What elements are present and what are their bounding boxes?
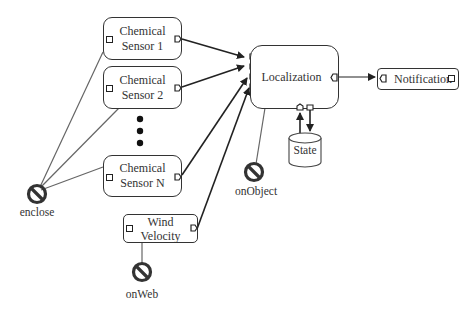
onobject-constraint-icon <box>246 164 263 181</box>
node-label: Localization <box>262 70 322 85</box>
wind-input-port-icon <box>126 225 133 232</box>
enclose-constraint-icon <box>29 186 46 203</box>
node-label: Chemical <box>120 73 166 88</box>
enclose-label: enclose <box>20 206 54 218</box>
sensorn-input-port-icon <box>106 174 113 181</box>
onweb-label: onWeb <box>126 288 158 300</box>
node-label: Sensor N <box>120 176 166 191</box>
ellipsis-dots <box>137 116 143 146</box>
onobject-label: onObject <box>235 185 277 197</box>
chemical-sensor-2-node[interactable]: ChemicalSensor 2 <box>103 66 182 109</box>
chemical-sensor-1-node[interactable]: ChemicalSensor 1 <box>103 17 182 60</box>
diagram-canvas <box>0 0 476 315</box>
sensor1-output-port-icon <box>174 35 183 43</box>
wind-velocity-node[interactable]: WindVelocity <box>123 214 198 243</box>
localization-output-port-icon <box>329 73 338 82</box>
node-label: Chemical <box>120 24 166 39</box>
localization-node[interactable]: Localization <box>250 45 339 109</box>
node-label: Velocity <box>141 229 181 243</box>
chemical-sensor-n-node[interactable]: ChemicalSensor N <box>103 155 182 197</box>
sensor1-input-port-icon <box>106 36 113 43</box>
onweb-constraint-icon <box>134 264 151 281</box>
wind-output-port-icon <box>190 224 199 232</box>
sensorn-output-port-icon <box>174 173 183 181</box>
node-label: Sensor 1 <box>120 39 166 54</box>
notification-input-port-icon <box>378 74 387 83</box>
node-label: Sensor 2 <box>120 88 166 103</box>
node-label: Chemical <box>120 161 166 176</box>
node-label: Notification <box>394 72 452 87</box>
localization-state-ports-icon <box>296 103 316 111</box>
notification-output-port-icon <box>448 75 455 82</box>
notification-node[interactable]: Notification <box>377 68 459 90</box>
sensor2-output-port-icon <box>174 84 183 92</box>
sensor2-input-port-icon <box>106 85 113 92</box>
node-label: Wind <box>141 215 181 229</box>
state-label: State <box>294 144 317 156</box>
